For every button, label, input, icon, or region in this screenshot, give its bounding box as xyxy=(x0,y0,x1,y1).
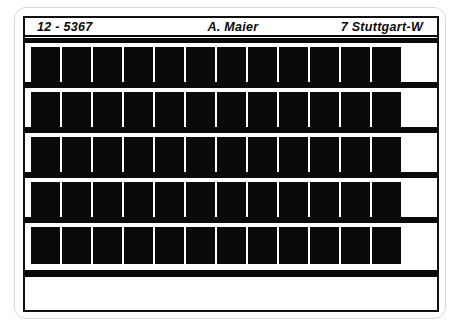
frame-cell xyxy=(155,137,184,174)
frame-cell xyxy=(310,227,339,264)
frame-cell xyxy=(186,182,215,219)
frame-cell xyxy=(93,137,122,174)
frame-cell xyxy=(341,182,370,219)
frame-cell xyxy=(62,182,91,219)
frame-cell xyxy=(279,227,308,264)
frame-cell xyxy=(372,182,401,219)
frame-cell xyxy=(186,227,215,264)
frame-cell xyxy=(93,47,122,84)
frame-cell xyxy=(248,227,277,264)
microfiche-card: 12 - 5367 A. Maier 7 Stuttgart-W xyxy=(23,16,439,312)
frame-cell xyxy=(341,137,370,174)
frame-cell xyxy=(310,182,339,219)
frame-cell xyxy=(310,47,339,84)
frame-row xyxy=(25,223,437,268)
frame-cell xyxy=(93,92,122,129)
frame-cell xyxy=(155,182,184,219)
frame-cell xyxy=(341,227,370,264)
frame-cell xyxy=(372,137,401,174)
frame-cell xyxy=(372,47,401,84)
frame-cell xyxy=(279,137,308,174)
frame-cell xyxy=(124,47,153,84)
frame-cell xyxy=(155,92,184,129)
frame-cell xyxy=(217,47,246,84)
frame-cell xyxy=(217,227,246,264)
frame-cell xyxy=(341,47,370,84)
frame-cell xyxy=(310,92,339,129)
frame-cell xyxy=(279,47,308,84)
frame-cell xyxy=(62,92,91,129)
frame-grid xyxy=(25,43,437,268)
frame-cell xyxy=(31,47,60,84)
frame-cell xyxy=(31,137,60,174)
frame-cell xyxy=(93,182,122,219)
frame-cell xyxy=(310,137,339,174)
scanned-sheet: 12 - 5367 A. Maier 7 Stuttgart-W xyxy=(14,7,446,319)
bottom-separator-band xyxy=(25,268,437,277)
frame-cell xyxy=(248,92,277,129)
frame-row xyxy=(25,133,437,178)
frame-cell xyxy=(124,182,153,219)
frame-cell xyxy=(186,92,215,129)
frame-cell xyxy=(217,92,246,129)
frame-cell xyxy=(279,92,308,129)
frame-cell xyxy=(31,92,60,129)
frame-cell xyxy=(372,92,401,129)
frame-cell xyxy=(31,227,60,264)
frame-cell xyxy=(124,227,153,264)
frame-cell xyxy=(186,47,215,84)
frame-cell xyxy=(341,92,370,129)
frame-cell xyxy=(31,182,60,219)
frame-cell xyxy=(155,47,184,84)
frame-row xyxy=(25,43,437,88)
frame-cell xyxy=(248,47,277,84)
frame-cell xyxy=(124,137,153,174)
frame-cell xyxy=(248,137,277,174)
frame-cell xyxy=(217,182,246,219)
frame-cell xyxy=(248,182,277,219)
frame-cell xyxy=(62,227,91,264)
frame-cell xyxy=(62,47,91,84)
frame-cell xyxy=(186,137,215,174)
card-header: 12 - 5367 A. Maier 7 Stuttgart-W xyxy=(25,18,437,37)
frame-cell xyxy=(372,227,401,264)
frame-row xyxy=(25,88,437,133)
frame-cell xyxy=(93,227,122,264)
frame-cell xyxy=(124,92,153,129)
frame-cell xyxy=(155,227,184,264)
frame-cell xyxy=(279,182,308,219)
header-location-label: 7 Stuttgart-W xyxy=(341,18,423,37)
frame-cell xyxy=(217,137,246,174)
frame-cell xyxy=(62,137,91,174)
frame-row xyxy=(25,178,437,223)
